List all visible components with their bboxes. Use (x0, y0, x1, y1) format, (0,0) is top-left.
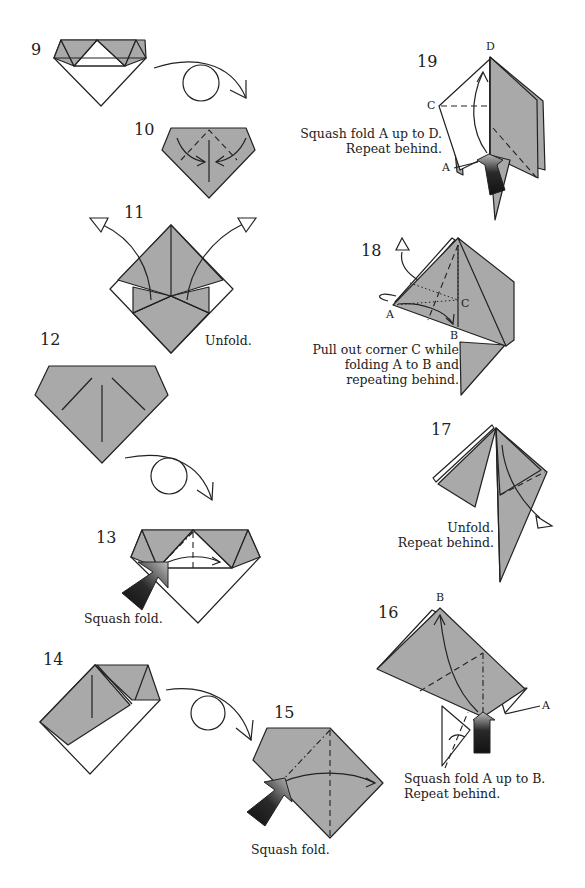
turn-over-icon (125, 455, 213, 500)
step-17-diagram (433, 425, 552, 582)
turn-over-icon (166, 689, 253, 740)
step-19-label-a: A (442, 161, 450, 174)
step-11-caption: Unfold. (205, 333, 252, 348)
step-16-label-b: B (436, 591, 444, 604)
step-number-16: 16 (378, 603, 398, 622)
step-15-caption: Squash fold. (251, 842, 330, 857)
step-13-diagram (122, 530, 260, 623)
step-18-caption-line-1: Pull out corner C while (312, 342, 459, 357)
step-12-diagram (35, 366, 168, 463)
step-19-caption-line-2: Repeat behind. (346, 141, 442, 156)
step-number-19: 19 (417, 52, 437, 71)
diagram-canvas (0, 0, 585, 888)
step-9-diagram (54, 40, 146, 106)
step-15-diagram (247, 728, 383, 838)
step-number-14: 14 (43, 650, 63, 669)
step-16-caption-line-1: Squash fold A up to B. (404, 771, 545, 786)
step-16-label-a: A (542, 699, 550, 712)
step-number-17: 17 (431, 420, 451, 439)
step-16-caption-line-2: Repeat behind. (404, 786, 500, 801)
step-16-diagram (377, 608, 540, 768)
step-14-diagram (40, 665, 160, 774)
step-number-15: 15 (274, 703, 294, 722)
step-19-label-c: C (427, 99, 435, 112)
step-19-caption-line-1: Squash fold A up to D. (300, 126, 442, 141)
step-19-diagram (439, 57, 545, 220)
step-18-label-b: B (450, 329, 458, 342)
step-10-diagram (162, 128, 255, 198)
step-18-label-a: A (386, 308, 394, 321)
step-number-13: 13 (96, 528, 116, 547)
turn-over-icon (154, 62, 246, 101)
step-number-12: 12 (40, 330, 60, 349)
step-17-caption-line-2: Repeat behind. (398, 535, 494, 550)
step-number-9: 9 (31, 40, 41, 59)
step-18-label-c: C (461, 297, 469, 310)
step-18-caption-line-3: repeating behind. (346, 372, 459, 387)
step-number-10: 10 (134, 120, 154, 139)
step-19-label-d: D (486, 40, 495, 53)
step-13-caption: Squash fold. (84, 611, 163, 626)
step-17-caption-line-1: Unfold. (447, 520, 494, 535)
step-18-caption-line-2: folding A to B and (345, 357, 459, 372)
step-number-18: 18 (361, 241, 381, 260)
step-number-11: 11 (124, 203, 144, 222)
